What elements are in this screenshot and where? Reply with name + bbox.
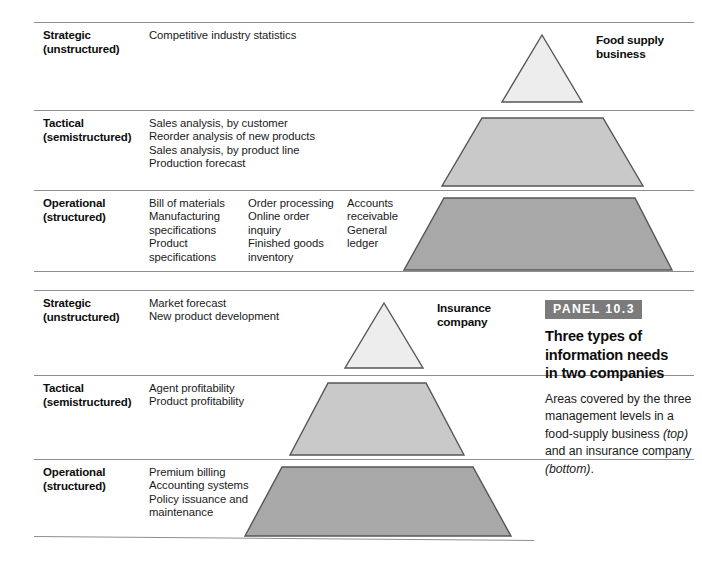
panel-description-italic-top: (top) xyxy=(663,427,688,441)
divider-top-operational xyxy=(34,190,694,191)
level-label-strategic-food: Strategic (unstructured) xyxy=(43,29,119,56)
items-tactical-food-col1: Sales analysis, by customer Reorder anal… xyxy=(149,117,439,171)
items-operational-food-col2: Order processing Online order inquiry Fi… xyxy=(248,197,358,264)
panel-description-italic-bottom: (bottom) xyxy=(545,462,590,476)
figure-canvas: Strategic (unstructured) Competitive ind… xyxy=(0,0,702,564)
pyramid-bottom-strategic-triangle xyxy=(343,301,425,371)
level-label-operational-insurance: Operational (structured) xyxy=(43,466,106,493)
divider-top-section-end xyxy=(34,271,694,272)
level-label-operational-food: Operational (structured) xyxy=(43,197,106,224)
level-label-tactical-insurance: Tactical (semistructured) xyxy=(43,382,131,409)
shape-caption-food-supply: Food supply business xyxy=(596,33,664,61)
items-strategic-food-col1: Competitive industry statistics xyxy=(149,29,429,42)
panel-title: Three types of information needs in two … xyxy=(545,327,695,383)
divider-top-tactical xyxy=(34,110,694,111)
pyramid-top-tactical-trapezoid xyxy=(440,116,645,188)
items-operational-food-col1: Bill of materials Manufacturing specific… xyxy=(149,197,259,264)
pyramid-top-operational-trapezoid xyxy=(402,196,674,272)
pyramid-top-strategic-triangle xyxy=(500,33,584,105)
caption-panel: PANEL 10.3 Three types of information ne… xyxy=(545,299,695,478)
panel-description-part-3: . xyxy=(590,462,593,476)
pyramid-bottom-operational-trapezoid xyxy=(243,465,515,539)
panel-description-part-2: and an insurance company xyxy=(545,444,691,458)
panel-description: Areas covered by the three management le… xyxy=(545,391,695,479)
panel-number-badge: PANEL 10.3 xyxy=(545,300,642,319)
level-label-strategic-insurance: Strategic (unstructured) xyxy=(43,297,119,324)
level-label-tactical-food: Tactical (semistructured) xyxy=(43,117,131,144)
divider-bottom-strategic xyxy=(34,290,694,291)
pyramid-bottom-tactical-trapezoid xyxy=(288,381,466,457)
shape-caption-insurance-company: Insurance company xyxy=(437,301,491,329)
divider-top-strategic xyxy=(34,22,694,23)
